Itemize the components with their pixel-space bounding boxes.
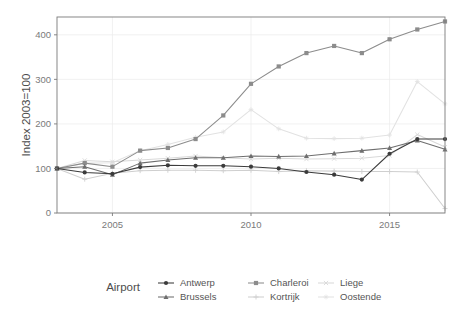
- data-point: [193, 137, 197, 141]
- data-point: [221, 164, 225, 168]
- data-point: [166, 163, 170, 167]
- x-axis-tick-label: 2015: [379, 219, 400, 230]
- legend-item-antwerp[interactable]: Antwerp: [158, 277, 215, 288]
- y-axis: 0100200300400: [35, 29, 57, 218]
- y-axis-tick-label: 300: [35, 74, 51, 85]
- legend-item-kortrijk[interactable]: Kortrijk: [248, 291, 300, 302]
- legend-title: Airport: [106, 281, 141, 293]
- line-chart: 0100200300400200520102015Index 2003=100A…: [0, 0, 466, 319]
- x-axis-tick-label: 2005: [102, 219, 123, 230]
- legend-item-charleroi[interactable]: Charleroi: [248, 277, 309, 288]
- legend-label: Kortrijk: [270, 291, 300, 302]
- legend-label: Brussels: [180, 291, 217, 302]
- data-point: [110, 172, 114, 176]
- legend-item-liege[interactable]: Liege: [318, 277, 363, 288]
- data-point: [324, 295, 329, 300]
- data-point: [254, 295, 259, 300]
- data-point: [387, 37, 391, 41]
- y-axis-tick-label: 100: [35, 163, 51, 174]
- data-point: [415, 27, 419, 31]
- data-point: [249, 82, 253, 86]
- legend-label: Oostende: [340, 291, 381, 302]
- data-point: [304, 51, 308, 55]
- data-point: [360, 177, 364, 181]
- data-point: [164, 281, 168, 285]
- data-point: [83, 170, 87, 174]
- y-axis-tick-label: 200: [35, 118, 51, 129]
- data-point: [249, 165, 253, 169]
- legend-label: Charleroi: [270, 277, 309, 288]
- chart-figure: 0100200300400200520102015Index 2003=100A…: [0, 0, 466, 319]
- data-point: [110, 165, 114, 169]
- data-point: [277, 166, 281, 170]
- data-point: [166, 146, 170, 150]
- y-axis-title: Index 2003=100: [20, 74, 32, 157]
- legend-label: Antwerp: [180, 277, 215, 288]
- data-point: [254, 281, 258, 285]
- data-point: [138, 165, 142, 169]
- legend-item-oostende[interactable]: Oostende: [318, 291, 381, 302]
- data-point: [387, 152, 391, 156]
- legend-item-brussels[interactable]: Brussels: [158, 291, 217, 302]
- data-point: [360, 51, 364, 55]
- data-point: [304, 170, 308, 174]
- data-point: [332, 44, 336, 48]
- data-point: [277, 64, 281, 68]
- data-point: [221, 113, 225, 117]
- x-axis: 200520102015: [102, 213, 400, 230]
- x-axis-tick-label: 2010: [240, 219, 261, 230]
- y-axis-tick-label: 0: [46, 207, 51, 218]
- data-point: [138, 149, 142, 153]
- data-point: [332, 173, 336, 177]
- legend-label: Liege: [340, 277, 363, 288]
- y-axis-tick-label: 400: [35, 29, 51, 40]
- data-point: [193, 164, 197, 168]
- data-point: [415, 137, 419, 141]
